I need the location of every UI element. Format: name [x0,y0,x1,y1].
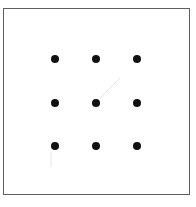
dot-r1-c2 [92,55,100,63]
dot-r2-c3 [133,99,141,107]
dot-r3-c1 [51,142,59,150]
dot-r2-c1 [51,99,59,107]
nine-dots-diagram [0,0,196,207]
dot-r3-c3 [133,142,141,150]
dot-r2-c2 [92,99,100,107]
dot-r1-c1 [51,55,59,63]
faint-lines [51,78,120,167]
dot-r1-c3 [133,55,141,63]
dot-r3-c2 [92,142,100,150]
dot-grid [51,55,141,150]
faint-line-1 [100,78,120,98]
